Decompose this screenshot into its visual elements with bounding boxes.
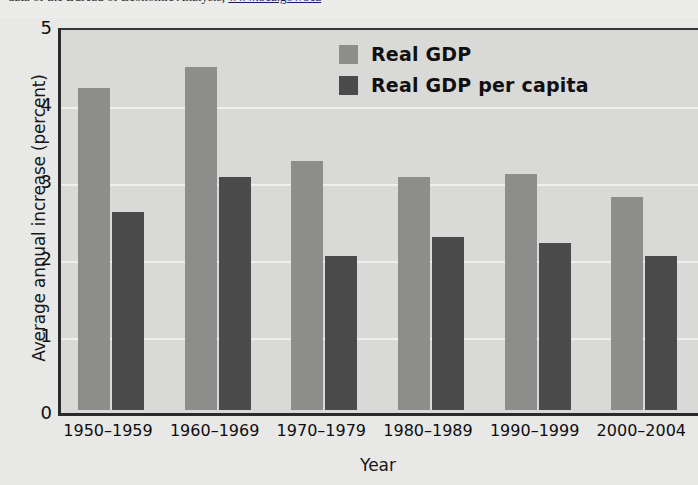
x-axis-tick-1980-1989: 1980–1989	[373, 421, 483, 440]
bar-1980-1989-real-gdp-per-capita	[432, 237, 464, 410]
legend-item-real-gdp[interactable]: Real GDP	[339, 43, 659, 65]
bar-1950-1959-real-gdp	[78, 88, 110, 410]
bar-1960-1969-real-gdp-per-capita	[219, 177, 251, 410]
legend-swatch-icon-real-gdp	[339, 45, 358, 64]
y-axis-tick-0: 0	[6, 402, 52, 423]
bar-1980-1989-real-gdp	[398, 177, 430, 410]
legend-label-real-gdp: Real GDP	[371, 43, 471, 65]
bar-2000-2004-real-gdp-per-capita	[645, 256, 677, 410]
legend-swatch-icon-real-gdp-per-capita	[339, 76, 358, 95]
y-axis-tick-5: 5	[6, 17, 52, 38]
bar-chart-figure: Average annual increase (percent) 012345…	[0, 0, 698, 485]
y-axis-tick-3: 3	[6, 171, 52, 192]
y-axis-tick-1: 1	[6, 325, 52, 346]
x-axis-tick-1990-1999: 1990–1999	[480, 421, 590, 440]
bar-1990-1999-real-gdp-per-capita	[539, 243, 571, 410]
legend-item-real-gdp-per-capita[interactable]: Real GDP per capita	[339, 74, 659, 96]
x-axis-tick-labels: 1950–19591960–19691970–19791980–19891990…	[58, 421, 698, 447]
legend: Real GDP Real GDP per capita	[339, 43, 659, 105]
bar-1960-1969-real-gdp	[185, 67, 217, 410]
x-axis-tick-1950-1959: 1950–1959	[53, 421, 163, 440]
x-axis-tick-1960-1969: 1960–1969	[160, 421, 270, 440]
bar-2000-2004-real-gdp	[611, 197, 643, 410]
bar-1970-1979-real-gdp-per-capita	[325, 256, 357, 410]
x-axis-tick-1970-1979: 1970–1979	[266, 421, 376, 440]
x-axis-tick-2000-2004: 2000–2004	[586, 421, 696, 440]
x-axis-title: Year	[58, 455, 698, 475]
bar-1950-1959-real-gdp-per-capita	[112, 212, 144, 410]
bar-1990-1999-real-gdp	[505, 174, 537, 410]
y-axis-tick-4: 4	[6, 94, 52, 115]
y-axis-tick-2: 2	[6, 248, 52, 269]
plot-area: Real GDP Real GDP per capita	[58, 28, 698, 416]
y-axis-tick-labels: 012345	[0, 0, 52, 485]
bar-1970-1979-real-gdp	[291, 161, 323, 410]
legend-label-real-gdp-per-capita: Real GDP per capita	[371, 74, 589, 96]
